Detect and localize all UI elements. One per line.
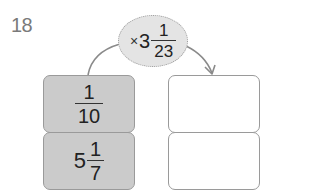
- arc-left: [88, 44, 120, 75]
- operator-denominator: 23: [151, 43, 176, 60]
- given-denominator-1: 10: [75, 106, 103, 126]
- given-numerator-2: 1: [87, 139, 104, 159]
- operator-numerator: 1: [156, 22, 171, 39]
- answer-box-1[interactable]: [168, 75, 260, 133]
- fraction-bar: [75, 103, 103, 104]
- arc-right: [186, 46, 212, 73]
- fraction-bar: [87, 160, 104, 161]
- given-fraction-2: 1 7: [87, 139, 104, 183]
- answer-box-2[interactable]: [168, 132, 260, 190]
- given-box-1: 1 10: [43, 75, 135, 133]
- given-whole-2: 5: [74, 148, 86, 174]
- multiply-icon: ×: [130, 33, 138, 49]
- given-box-2: 5 1 7: [43, 132, 135, 190]
- fraction-bar: [151, 40, 176, 41]
- given-mixed-number-2: 5 1 7: [74, 139, 104, 183]
- operator-whole: 3: [139, 30, 150, 53]
- given-fraction-1: 1 10: [75, 82, 103, 126]
- operator-bubble: × 3 1 23: [118, 15, 188, 67]
- given-numerator-1: 1: [80, 82, 97, 102]
- operator-fraction: 1 23: [151, 22, 176, 60]
- given-denominator-2: 7: [87, 163, 104, 183]
